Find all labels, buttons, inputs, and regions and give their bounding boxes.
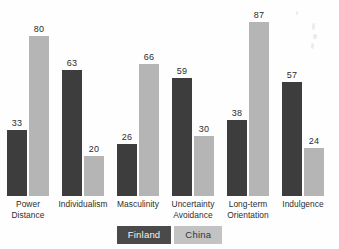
bar-value-finland-masculinity: 26 <box>122 132 132 142</box>
category-label-line-2: Orientation <box>211 210 285 221</box>
hofstede-dimensions-bar-chart: 33 80 63 20 26 66 59 <box>0 0 339 249</box>
bar-finland-indulgence[interactable]: 57 <box>282 82 302 196</box>
bar-value-china-power-distance: 80 <box>34 24 44 34</box>
bar-china-power-distance[interactable]: 80 <box>29 36 49 196</box>
bar-china-individualism[interactable]: 20 <box>84 156 104 196</box>
bar-value-china-individualism: 20 <box>89 144 99 154</box>
category-label-indulgence: Indulgence <box>266 199 339 210</box>
bar-group-masculinity: 26 66 <box>117 0 159 197</box>
bar-china-indulgence[interactable]: 24 <box>304 148 324 196</box>
legend-item-finland[interactable]: Finland <box>117 226 172 244</box>
plot-area: 33 80 63 20 26 66 59 <box>0 0 339 197</box>
bar-finland-long-term-orientation[interactable]: 38 <box>227 120 247 196</box>
bar-finland-uncertainty-avoidance[interactable]: 59 <box>172 78 192 196</box>
bar-value-china-indulgence: 24 <box>309 136 319 146</box>
bar-value-finland-long-term-orientation: 38 <box>232 108 242 118</box>
legend-item-china[interactable]: China <box>174 226 222 244</box>
bar-china-long-term-orientation[interactable]: 87 <box>249 22 269 196</box>
bar-value-finland-uncertainty-avoidance: 59 <box>177 66 187 76</box>
bar-group-power-distance: 33 80 <box>7 0 49 197</box>
bar-value-china-long-term-orientation: 87 <box>254 10 264 20</box>
bar-value-finland-individualism: 63 <box>67 58 77 68</box>
bar-finland-individualism[interactable]: 63 <box>62 70 82 196</box>
bar-group-individualism: 63 20 <box>62 0 104 197</box>
bar-finland-masculinity[interactable]: 26 <box>117 144 137 196</box>
bar-value-china-uncertainty-avoidance: 30 <box>199 124 209 134</box>
bar-finland-power-distance[interactable]: 33 <box>7 130 27 196</box>
bar-value-finland-power-distance: 33 <box>12 118 22 128</box>
bar-value-finland-indulgence: 57 <box>287 70 297 80</box>
category-label-line-2: Distance <box>0 210 65 221</box>
bar-china-uncertainty-avoidance[interactable]: 30 <box>194 136 214 196</box>
bar-group-uncertainty-avoidance: 59 30 <box>172 0 214 197</box>
bar-china-masculinity[interactable]: 66 <box>139 64 159 196</box>
chart-legend: Finland China <box>0 226 339 244</box>
bar-value-china-masculinity: 66 <box>144 52 154 62</box>
bar-group-indulgence: 57 24 <box>282 0 324 197</box>
category-label-line-1: Indulgence <box>266 199 339 210</box>
bar-group-long-term-orientation: 38 87 <box>227 0 269 197</box>
